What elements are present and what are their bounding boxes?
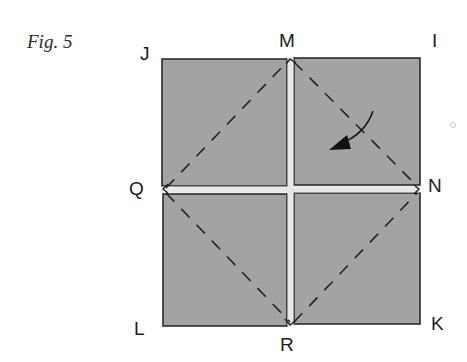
smudge-mark	[451, 123, 456, 128]
paper-quadrants	[162, 58, 420, 326]
point-label-j: J	[140, 43, 150, 65]
quadrant-bottom-right	[294, 193, 420, 324]
quadrant-top-left	[162, 59, 287, 186]
point-label-l: L	[134, 318, 145, 340]
point-label-k: K	[431, 313, 444, 335]
point-label-i: I	[432, 30, 437, 52]
quadrant-top-right	[294, 58, 420, 185]
folding-diagram	[0, 0, 467, 362]
point-label-r: R	[280, 334, 294, 356]
point-label-n: N	[428, 175, 442, 197]
horizontal-gap	[162, 187, 420, 193]
quadrant-bottom-left	[163, 194, 287, 326]
point-label-m: M	[279, 30, 295, 52]
point-label-q: Q	[129, 178, 144, 200]
